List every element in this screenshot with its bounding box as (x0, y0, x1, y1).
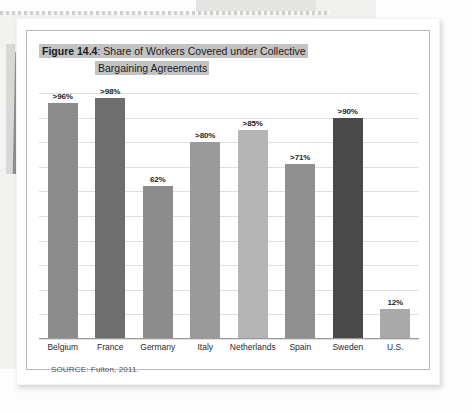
background-tab-strip-secondary (316, 0, 376, 18)
bar-italy[interactable] (190, 142, 220, 339)
screenshot-root: Figure 14.4: Share of Workers Covered un… (0, 0, 472, 413)
bar-slot[interactable]: >71% (277, 93, 325, 339)
bar-value-label: 62% (134, 175, 182, 184)
bar-belgium[interactable] (48, 103, 78, 339)
bar-value-label: >98% (87, 87, 135, 96)
bar-value-label: 12% (372, 298, 420, 307)
figure-title-line-2-wrap: Bargaining Agreements (39, 61, 369, 76)
bar-slot[interactable]: >96% (39, 93, 87, 339)
bar-germany[interactable] (143, 186, 173, 339)
bar-slot[interactable]: 12% (372, 93, 420, 339)
x-axis-label-germany: Germany (134, 342, 182, 352)
bar-slot[interactable]: >85% (229, 93, 277, 339)
chart-x-axis-line (39, 338, 419, 339)
figure-frame: Figure 14.4: Share of Workers Covered un… (26, 30, 430, 370)
figure-title-text-2: Bargaining Agreements (95, 61, 209, 75)
x-axis-label-sweden: Sweden (324, 342, 372, 352)
bar-us[interactable] (380, 309, 410, 339)
bar-value-label: >90% (324, 107, 372, 116)
bar-slot[interactable]: 62% (134, 93, 182, 339)
figure-title-text-1: Share of Workers Covered under Collectiv… (103, 45, 305, 57)
gridline (39, 339, 419, 340)
bar-value-label: >80% (182, 131, 230, 140)
x-axis-label-france: France (87, 342, 135, 352)
bar-value-label: >85% (229, 119, 277, 128)
x-axis-label-us: U.S. (372, 342, 420, 352)
x-axis-label-belgium: Belgium (39, 342, 87, 352)
page-sheet: Figure 14.4: Share of Workers Covered un… (16, 18, 440, 385)
x-axis-label-netherlands: Netherlands (229, 342, 277, 352)
bar-value-label: >96% (39, 92, 87, 101)
x-axis-label-spain: Spain (277, 342, 325, 352)
figure-title-line-1: Figure 14.4: Share of Workers Covered un… (39, 44, 308, 58)
bar-sweden[interactable] (333, 118, 363, 339)
x-axis-label-italy: Italy (182, 342, 230, 352)
chart-x-axis-labels: BelgiumFranceGermanyItalyNetherlandsSpai… (39, 342, 419, 352)
bar-slot[interactable]: >80% (182, 93, 230, 339)
figure-number: Figure 14.4 (42, 45, 97, 57)
page-perforation-edge (0, 11, 330, 15)
background-tab-strip (196, 0, 316, 11)
bar-slot[interactable]: >98% (87, 93, 135, 339)
bar-value-label: >71% (277, 153, 325, 162)
bar-slot[interactable]: >90% (324, 93, 372, 339)
figure-title: Figure 14.4: Share of Workers Covered un… (39, 44, 369, 76)
bar-spain[interactable] (285, 164, 315, 339)
chart-bars: >96%>98%62%>80%>85%>71%>90%12% (39, 93, 419, 339)
bar-netherlands[interactable] (238, 130, 268, 339)
chart-plot-area: >96%>98%62%>80%>85%>71%>90%12% (39, 93, 419, 339)
bar-france[interactable] (95, 98, 125, 339)
figure-source-note: SOURCE: Fulton, 2011. (51, 365, 139, 374)
